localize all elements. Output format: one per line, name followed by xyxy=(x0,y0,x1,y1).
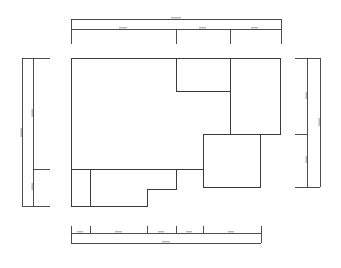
floor-plan xyxy=(71,58,280,206)
bottom-segment-label xyxy=(158,231,164,232)
right-dimension xyxy=(295,58,320,187)
left-segment-label xyxy=(32,183,33,190)
top-total-label xyxy=(171,17,181,18)
left-dimension xyxy=(21,58,51,206)
bottom-segment-label xyxy=(77,231,83,232)
bottom-segment-label xyxy=(115,231,122,232)
bottom-segment-label xyxy=(228,231,234,232)
top-segment-label xyxy=(251,27,258,28)
bottom-segment-label xyxy=(186,231,192,232)
floor-plan-drawing xyxy=(0,0,341,268)
bottom-total-label xyxy=(162,241,170,242)
top-dimension xyxy=(71,17,281,44)
right-total-label xyxy=(319,118,320,126)
top-segment-label xyxy=(119,27,127,28)
left-segment-label xyxy=(32,109,33,117)
right-segment-label xyxy=(306,92,307,99)
left-total-label xyxy=(21,128,22,137)
right-segment-label xyxy=(306,156,307,163)
top-segment-label xyxy=(199,27,206,28)
bottom-dimension xyxy=(71,226,261,243)
